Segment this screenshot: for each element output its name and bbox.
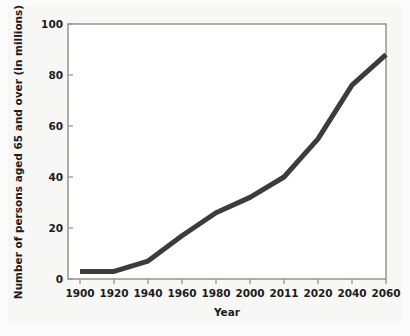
y-tick-label-80: 80 <box>48 69 63 81</box>
x-tick-label-1960: 1960 <box>167 287 196 299</box>
line-chart: 0 20 40 60 80 100 1900 1920 1940 1960 <box>0 0 410 336</box>
y-tick-label-40: 40 <box>48 171 63 183</box>
chart-figure: 0 20 40 60 80 100 1900 1920 1940 1960 <box>0 0 410 336</box>
y-tick-label-100: 100 <box>41 18 63 30</box>
x-axis-ticks <box>80 279 386 284</box>
plot-area <box>68 24 386 279</box>
y-tick-label-60: 60 <box>48 120 63 132</box>
x-tick-label-2011: 2011 <box>269 287 298 299</box>
x-axis-tick-labels: 1900 1920 1940 1960 1980 2000 2011 2020 … <box>65 287 400 299</box>
x-tick-label-1940: 1940 <box>133 287 162 299</box>
y-axis-tick-labels: 0 20 40 60 80 100 <box>41 18 63 285</box>
x-tick-label-2020: 2020 <box>303 287 332 299</box>
y-tick-label-0: 0 <box>56 273 63 285</box>
x-tick-label-2000: 2000 <box>235 287 264 299</box>
y-tick-label-20: 20 <box>48 222 63 234</box>
y-axis-title: Number of persons aged 65 and over (in m… <box>12 5 24 299</box>
x-tick-label-1900: 1900 <box>65 287 94 299</box>
x-axis-title: Year <box>213 306 241 318</box>
x-tick-label-2040: 2040 <box>337 287 366 299</box>
x-tick-label-1980: 1980 <box>201 287 230 299</box>
x-tick-label-1920: 1920 <box>99 287 128 299</box>
x-tick-label-2060: 2060 <box>371 287 400 299</box>
